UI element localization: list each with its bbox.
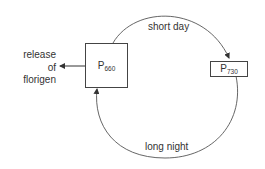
short-day-label: short day <box>148 21 189 33</box>
p660-label: P660 <box>98 60 116 72</box>
p730-label: P730 <box>220 63 238 75</box>
p730-box: P730 <box>210 61 248 77</box>
p660-box: P660 <box>85 43 128 88</box>
florigen-label: release of florigen <box>14 49 56 87</box>
long-night-label: long night <box>145 141 188 153</box>
